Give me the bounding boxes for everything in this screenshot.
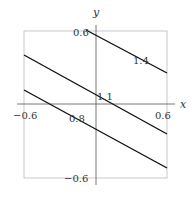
contour-line-1-1 bbox=[24, 55, 167, 134]
x-tick-min: −0.6 bbox=[13, 110, 37, 121]
contour-line-0-8 bbox=[24, 90, 167, 168]
y-tick-max: 0.6 bbox=[73, 27, 89, 38]
contour-line-1-4 bbox=[86, 30, 167, 73]
y-tick-min: −0.6 bbox=[64, 173, 88, 184]
contour-label-0-8: 0.8 bbox=[69, 113, 85, 124]
contour-label-1-4: 1.4 bbox=[133, 55, 149, 66]
x-tick-max: 0.6 bbox=[155, 110, 171, 121]
contour-label-1-1: 1.1 bbox=[97, 91, 113, 102]
contour-plot: y x 0.6 −0.6 −0.6 0.6 1.4 1.1 0.8 bbox=[0, 0, 195, 197]
y-axis-label: y bbox=[92, 6, 100, 19]
x-axis-label: x bbox=[180, 98, 187, 111]
